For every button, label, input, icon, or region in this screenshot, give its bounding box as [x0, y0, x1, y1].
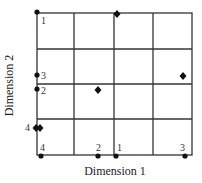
y-axis-title: Dimension 2: [2, 51, 17, 121]
x-proj-label-3: 3: [180, 143, 185, 153]
y-proj-label-1: 1: [41, 16, 46, 26]
mds-plot: 1 3 2 4 4 2 1 3 Dimension 1 Dimension 2: [0, 0, 202, 183]
plot-area: [0, 0, 202, 183]
y-proj-label-2: 2: [41, 86, 46, 96]
x-proj-label-2: 2: [96, 143, 101, 153]
x-proj-label-1: 1: [117, 143, 122, 153]
y-proj-label-4: 4: [25, 123, 30, 133]
diamond-marker-2: [95, 86, 102, 94]
diamond-marker-3: [180, 72, 187, 80]
x-axis-title: Dimension 1: [0, 164, 202, 179]
x-proj-label-4: 4: [40, 143, 45, 153]
grid-lines: [37, 13, 192, 155]
y-proj-label-3: 3: [41, 71, 46, 81]
diamond-markers: [33, 10, 187, 132]
